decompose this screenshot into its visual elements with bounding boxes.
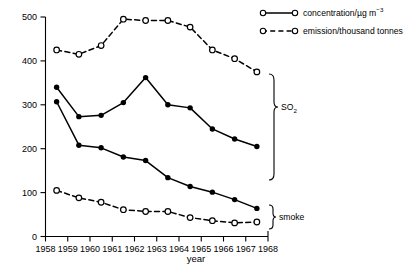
- data-point-open: [76, 195, 82, 201]
- legend-label-emission: emission/thousand tonnes: [303, 26, 403, 36]
- data-point-open: [98, 43, 104, 49]
- data-point-open: [165, 209, 171, 215]
- data-point-filled: [98, 113, 103, 118]
- data-point-filled: [165, 175, 170, 180]
- legend-open-circle-right: [292, 28, 297, 33]
- data-point-filled: [76, 142, 81, 147]
- data-point-open: [143, 18, 149, 24]
- data-point-open: [54, 188, 60, 194]
- data-point-filled: [76, 114, 81, 119]
- x-tick-label: 1968: [258, 244, 278, 254]
- data-point-filled: [54, 99, 59, 104]
- data-point-filled: [121, 154, 126, 159]
- data-point-filled: [54, 85, 59, 90]
- data-point-open: [187, 215, 193, 221]
- y-tick-label: 200: [22, 144, 37, 154]
- data-point-open: [254, 69, 260, 75]
- data-point-filled: [232, 197, 237, 202]
- legend-open-circle-right: [292, 10, 297, 15]
- data-point-filled: [232, 136, 237, 141]
- data-point-open: [210, 47, 216, 53]
- chart-root: 0100200300400500 19581959196019611962196…: [0, 0, 418, 274]
- legend-open-circle-left: [260, 28, 265, 33]
- x-tick-label: 1967: [236, 244, 256, 254]
- so2-label-subscript: 2: [293, 107, 297, 114]
- legend-label-concentration-main: concentration/µg m: [303, 8, 376, 18]
- data-point-filled: [254, 144, 259, 149]
- data-point-open: [76, 52, 82, 58]
- data-point-open: [121, 207, 127, 213]
- data-point-filled: [121, 100, 126, 105]
- y-tick-label: 0: [32, 232, 37, 242]
- smoke-group-label: smoke: [279, 212, 305, 222]
- x-tick-label: 1966: [213, 244, 233, 254]
- air-pollution-line-chart: 0100200300400500 19581959196019611962196…: [0, 0, 418, 274]
- data-point-open: [210, 218, 216, 224]
- x-tick-labels: 1958195919601961196219631964196519661967…: [35, 244, 278, 254]
- y-tick-label: 400: [22, 56, 37, 66]
- data-point-open: [98, 199, 104, 205]
- legend-label-concentration: concentration/µg m−3: [303, 6, 384, 18]
- data-point-open: [143, 209, 149, 215]
- data-point-filled: [254, 206, 259, 211]
- x-tick-label: 1961: [102, 244, 122, 254]
- data-point-open: [232, 220, 238, 226]
- data-point-filled: [187, 184, 192, 189]
- so2-label-main: SO: [281, 102, 294, 112]
- data-point-open: [165, 18, 171, 24]
- legend-label-concentration-superscript: −3: [376, 6, 384, 13]
- legend-open-circle-left: [260, 10, 265, 15]
- data-point-open: [254, 219, 260, 225]
- data-point-open: [54, 47, 60, 53]
- x-tick-label: 1960: [80, 244, 100, 254]
- x-tick-label: 1962: [124, 244, 144, 254]
- data-point-filled: [165, 102, 170, 107]
- data-point-filled: [210, 126, 215, 131]
- y-tick-label: 100: [22, 188, 37, 198]
- x-tick-label: 1963: [147, 244, 167, 254]
- data-point-filled: [187, 105, 192, 110]
- data-point-filled: [98, 145, 103, 150]
- data-point-open: [121, 16, 127, 22]
- x-tick-label: 1958: [35, 244, 55, 254]
- x-tick-label: 1959: [58, 244, 78, 254]
- data-point-filled: [143, 75, 148, 80]
- data-point-filled: [210, 189, 215, 194]
- chart-background: [0, 0, 418, 274]
- y-tick-label: 500: [22, 12, 37, 22]
- x-axis-title: year: [187, 253, 205, 264]
- data-point-open: [232, 56, 238, 62]
- data-point-open: [187, 24, 193, 30]
- y-tick-label: 300: [22, 100, 37, 110]
- data-point-filled: [143, 158, 148, 163]
